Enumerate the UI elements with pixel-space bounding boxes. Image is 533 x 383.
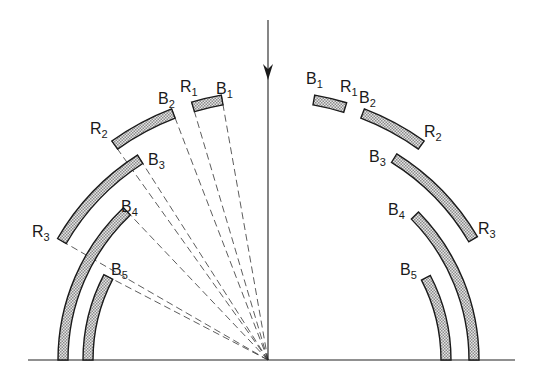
label-right-b5: B5 (400, 261, 417, 281)
left-band-R2-B2 (112, 109, 175, 149)
label-right-b1: B1 (306, 70, 323, 90)
label-left-b5: B5 (111, 261, 128, 281)
dashed-ray (123, 208, 268, 360)
label-left-r2: R2 (90, 120, 108, 140)
incident-beam-arrow (263, 20, 273, 360)
diffraction-diagram: B1R1B2R2B3R3B4B5B1R1B2R2B3R3B4B5 (0, 0, 533, 383)
label-right-b4: B4 (388, 201, 405, 221)
dashed-ray (192, 102, 268, 360)
right-band-B5 (421, 276, 451, 361)
dashed-ray (104, 275, 268, 360)
label-right-b2: B2 (359, 89, 376, 109)
label-right-b3: B3 (369, 148, 386, 168)
dashed-ray (172, 109, 268, 360)
right-band-B1-R1 (313, 95, 347, 112)
dashed-ray (112, 141, 268, 360)
label-right-r2: R2 (424, 123, 442, 143)
label-left-r1: R1 (180, 78, 198, 98)
label-left-r3: R3 (32, 223, 50, 243)
dashed-ray (221, 95, 268, 360)
label-left-b2: B2 (158, 90, 175, 110)
label-left-b3: B3 (148, 151, 165, 171)
left-band-B5 (83, 275, 113, 360)
label-right-r3: R3 (478, 220, 496, 240)
label-right-r1: R1 (340, 78, 358, 98)
dashed-ray (137, 155, 268, 360)
right-band-B2-R2 (361, 109, 424, 149)
right-band-B3-R3 (391, 154, 477, 242)
